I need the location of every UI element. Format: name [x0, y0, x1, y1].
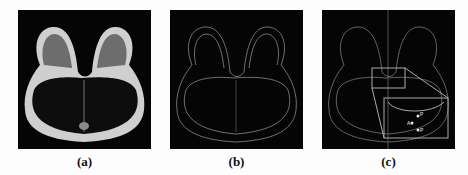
svg-text:A: A [407, 120, 411, 126]
svg-text:P: P [420, 111, 424, 117]
caption-c: (c) [322, 154, 455, 170]
edge-image-with-inset: P A P [322, 10, 455, 149]
caption-b: (b) [170, 154, 303, 170]
edge-detected-image [170, 10, 303, 149]
caption-a: (a) [18, 154, 151, 170]
panel-a-mri-image [18, 10, 151, 149]
svg-text:P: P [420, 127, 424, 133]
magnified-inset [384, 98, 448, 138]
mri-original-image [18, 10, 151, 149]
panel-b-edge-image [170, 10, 303, 149]
panel-c-zoomed-edge-image: P A P [322, 10, 455, 149]
